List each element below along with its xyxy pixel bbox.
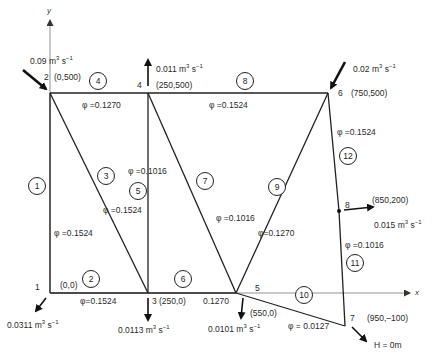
pipe-11-number: 11 [346,254,364,272]
pipe-6-diameter: 0.1270 [203,296,229,306]
pipe-12-number: 12 [339,147,357,165]
pipe-1-diameter: φ =0.1524 [54,228,93,238]
pipe-6-number: 6 [174,270,192,288]
flow-node5-out: 0.0101 m3 s−1 [208,324,260,334]
pipe-9-diameter: φ=0.1270 [258,228,294,238]
pipe-4-diameter: φ =0.1270 [82,100,121,110]
pipe-4-number: 4 [89,72,107,90]
node-8-coords: (850,200) [372,195,408,205]
node-7-id: 7 [350,313,355,323]
pipe-8-diameter: φ =0.1524 [209,100,248,110]
flow-node8-out: 0.015 m3 s−1 [374,220,422,230]
network-lines [0,0,438,360]
arrow-out-node1 [36,298,46,311]
node-6-id: 6 [338,88,343,98]
pipe-2-diameter: φ=0.1524 [80,296,116,306]
node-2-coords: (0,500) [54,72,81,82]
pipe-10-number: 10 [295,286,313,304]
pipe-11 [339,211,345,326]
flow-node1-out: 0.0311 m3 s−1 [7,320,59,330]
pipe-10-diameter: φ = 0.0127 [288,321,329,331]
pipe-7-number: 7 [196,172,214,190]
pipe-11-diameter: φ =0.1016 [345,240,384,250]
node-2-id: 2 [44,72,49,82]
pipe-7-diameter: φ =0.1016 [216,213,255,223]
flow-node4-out: 0.011 m3 s−1 [156,64,203,74]
arrow-out-node7 [352,327,366,341]
x-axis-label: x [415,288,419,297]
arrow-in-node6 [331,62,345,88]
node-6-coords: (750,500) [351,88,387,98]
arrow-in-node2 [23,70,46,89]
pipe-7 [148,93,236,293]
pipe-9-number: 9 [268,178,286,196]
pipe-5-diameter: φ =0.1016 [128,166,167,176]
arrow-out-node5 [241,298,243,318]
node-3-id: 3 [152,296,157,306]
node-5-id: 5 [255,283,260,293]
flow-node3-out: 0.0113 m3 s−1 [118,325,170,335]
node-7-coords: (950,–100) [367,313,408,323]
y-axis-label: y [47,6,51,15]
flow-node6-in: 0.02 m3 s−1 [353,64,396,74]
node-8-dot [337,209,341,213]
node-7-head-boundary: H = 0m [374,340,402,350]
pipe-network-diagram: y x 1 (0,0) 2 (0,500) 3 (250,0) 4 (250,5… [0,0,438,360]
pipe-2-number: 2 [82,270,100,288]
node-1-coords: (0,0) [60,280,77,290]
node-1-id: 1 [35,282,40,292]
node-4-id: 4 [137,80,142,90]
node-4-coords: (250,500) [156,80,192,90]
pipe-12 [328,93,339,211]
pipe-3-number: 3 [97,167,115,185]
node-5-coords: (550,0) [250,308,277,318]
pipe-1-number: 1 [28,177,46,195]
node-8-id: 8 [345,200,350,210]
node-3-coords: (250,0) [159,296,186,306]
pipe-8-number: 8 [236,72,254,90]
pipe-5-number: 5 [129,182,147,200]
pipe-12-diameter: φ =0.1524 [337,127,376,137]
flow-node2-in: 0.09 m3 s−1 [30,56,73,66]
pipe-3-diameter: φ =0.1524 [103,205,142,215]
